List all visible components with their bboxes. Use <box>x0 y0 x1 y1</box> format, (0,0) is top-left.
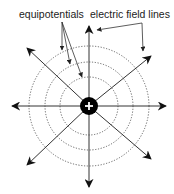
equipotentials-pointers <box>62 22 82 77</box>
pointer-to-inner-circle <box>62 22 82 77</box>
field-line-down-right <box>89 106 151 159</box>
field-line-up-left <box>27 48 89 106</box>
electric-field-diagram <box>0 0 174 194</box>
pointer-to-top-field-line <box>97 23 142 30</box>
field-lines-label: electric field lines <box>90 9 170 20</box>
pointer-to-middle-circle <box>62 22 70 64</box>
field-line-up-right <box>89 56 151 106</box>
equipotentials-label: equipotentials <box>19 9 84 20</box>
point-charge <box>80 97 98 115</box>
pointer-to-upper-right-field-line <box>142 23 143 51</box>
field-lines-pointers <box>97 23 143 51</box>
